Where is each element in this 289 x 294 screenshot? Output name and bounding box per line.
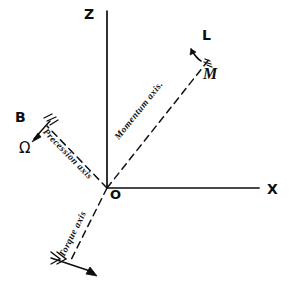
z-axis-label: Z [84, 7, 94, 21]
diagram-vector-layer [0, 0, 289, 294]
momentum-magnitude-label: M [203, 66, 217, 82]
torque-vector-arrowhead-icon [86, 267, 97, 276]
x-axis-label: X [267, 182, 278, 196]
precession-vector-arrowhead-icon [32, 133, 41, 142]
momentum-vector-head-label: L [202, 28, 211, 42]
physics-diagram-canvas: Z X O L M B Ω Momentum axis. Precession … [0, 0, 289, 294]
precession-magnitude-label: Ω [19, 141, 30, 156]
precession-spin-tick-marks-icon [44, 114, 58, 125]
origin-label: O [110, 188, 121, 201]
precession-vector-head-label: B [15, 110, 26, 124]
